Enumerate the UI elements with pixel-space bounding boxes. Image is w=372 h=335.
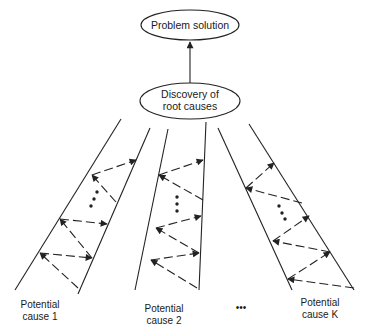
discovery-label-line2: root causes [163,100,217,112]
svg-text:Potential: Potential [21,299,60,310]
lane-cause-2 [135,122,206,290]
svg-text:Potential: Potential [301,297,340,308]
label-cause-k: Potential cause K [301,297,340,320]
svg-text:cause K: cause K [302,309,338,320]
problem-solution-node: Problem solution [141,10,239,40]
svg-text:Potential: Potential [145,303,184,314]
svg-text:cause 2: cause 2 [146,315,181,326]
label-cause-2: Potential cause 2 [145,303,184,326]
diagram-canvas: Problem solution Discovery of root cause… [0,0,372,335]
discovery-label-line1: Discovery of [161,88,219,100]
lanes-ellipsis: ••• [236,302,247,313]
problem-solution-label: Problem solution [151,19,229,31]
lane-cause-1 [15,119,150,294]
discovery-node: Discovery of root causes [140,83,240,119]
label-cause-1: Potential cause 1 [21,299,60,322]
lane-cause-k [218,124,354,290]
svg-text:cause 1: cause 1 [22,311,57,322]
